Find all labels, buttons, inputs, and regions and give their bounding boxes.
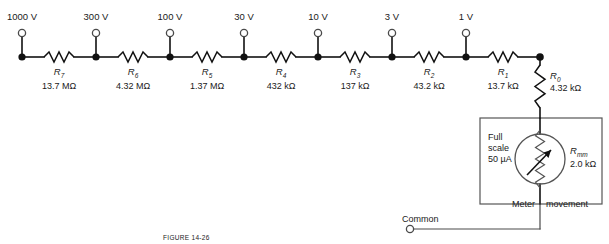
series-resistor-R3 <box>340 52 370 62</box>
range-label-100-v: 100 V <box>158 11 183 22</box>
junction-node <box>92 53 99 60</box>
junction-node <box>240 53 247 60</box>
range-label-30-v: 30 V <box>234 11 254 22</box>
series-resistor-R4 <box>266 52 296 62</box>
resistor-value-R4: 432 kΩ <box>267 81 296 91</box>
range-terminal-1000-v[interactable] <box>18 29 25 60</box>
junction-node <box>166 53 173 60</box>
range-terminal-1-v[interactable] <box>462 29 469 60</box>
resistor-name-R1: R1 <box>498 66 509 79</box>
terminal-jack-icon[interactable] <box>166 29 173 36</box>
range-label-1000-v: 1000 V <box>7 11 38 22</box>
range-label-300-v: 300 V <box>84 11 109 22</box>
figure-caption: FIGURE 14-26 <box>163 234 210 241</box>
bus-end-node <box>536 53 544 61</box>
resistor-value-R1: 13.7 kΩ <box>487 81 519 91</box>
range-terminal-3-v[interactable] <box>388 29 395 60</box>
meter-full-scale-line-2: scale <box>488 143 509 153</box>
meter-caption-left: Meter <box>512 199 535 209</box>
resistor-name-R3: R3 <box>350 66 361 79</box>
junction-node <box>18 53 25 60</box>
resistor-name-R7: R7 <box>54 66 65 79</box>
resistor-value-R2: 43.2 kΩ <box>413 81 445 91</box>
range-terminal-10-v[interactable] <box>314 29 321 60</box>
common-terminal-label: Common <box>402 214 439 224</box>
terminal-jack-icon[interactable] <box>388 29 395 36</box>
range-terminal-300-v[interactable] <box>92 29 99 60</box>
range-terminal-100-v[interactable] <box>166 29 173 60</box>
series-resistor-R2 <box>414 52 444 62</box>
series-resistor-R6 <box>118 52 148 62</box>
resistor-name-R4: R4 <box>276 66 287 79</box>
range-label-3-v: 3 V <box>385 11 400 22</box>
junction-node <box>314 53 321 60</box>
junction-node <box>388 53 395 60</box>
resistor-value-R6: 4.32 MΩ <box>116 81 151 91</box>
junction-node <box>462 53 469 60</box>
meter-dial-circle <box>515 134 565 184</box>
resistor-name-R2: R2 <box>424 66 435 79</box>
resistor-name-R5: R5 <box>202 66 213 79</box>
resistor-value-R0: 4.32 kΩ <box>550 83 582 93</box>
resistor-value-R7: 13.7 MΩ <box>42 81 77 91</box>
resistor-value-R5: 1.37 MΩ <box>190 81 225 91</box>
meter-full-scale-line-1: Full <box>488 132 503 142</box>
series-resistor-R1 <box>488 52 518 62</box>
series-resistor-R5 <box>192 52 222 62</box>
terminal-jack-icon[interactable] <box>92 29 99 36</box>
meter-resistance-value: 2.0 kΩ <box>570 159 597 169</box>
resistor-name-R6: R6 <box>128 66 139 79</box>
meter-full-scale-line-3: 50 µA <box>488 154 512 164</box>
resistor-name-R0: R0 <box>550 70 561 83</box>
terminal-jack-icon[interactable] <box>18 29 25 36</box>
range-label-1-v: 1 V <box>459 11 474 22</box>
shunt-resistor-R0 <box>535 65 545 108</box>
series-resistor-R7 <box>44 52 74 62</box>
terminal-jack-icon[interactable] <box>240 29 247 36</box>
meter-caption-right: movement <box>546 199 589 209</box>
common-terminal-jack-icon[interactable] <box>406 225 413 232</box>
meter-resistance-name: Rmm <box>570 145 588 158</box>
terminal-jack-icon[interactable] <box>314 29 321 36</box>
terminal-jack-icon[interactable] <box>462 29 469 36</box>
resistor-value-R3: 137 kΩ <box>341 81 370 91</box>
circuit-diagram: R713.7 MΩR64.32 MΩR51.37 MΩR4432 kΩR3137… <box>0 0 609 244</box>
range-terminal-30-v[interactable] <box>240 29 247 60</box>
range-label-10-v: 10 V <box>308 11 328 22</box>
